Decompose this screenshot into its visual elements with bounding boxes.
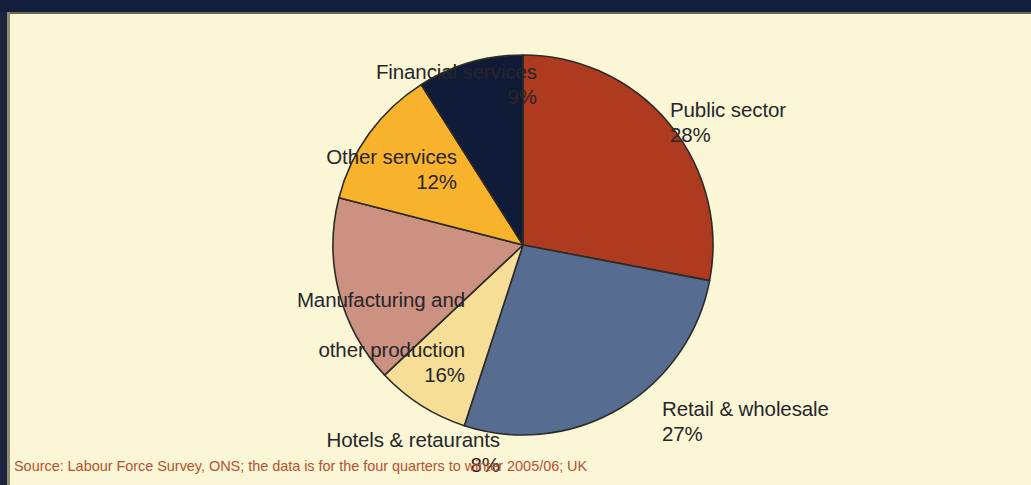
slice-label-text-line2: other production bbox=[318, 338, 465, 361]
slice-value-text: 16% bbox=[160, 362, 465, 387]
top-banner-bar bbox=[0, 0, 1031, 12]
left-edge-border bbox=[0, 12, 7, 485]
slice-label-text: Other services bbox=[326, 145, 457, 168]
slice-label-text: Retail & wholesale bbox=[662, 397, 829, 420]
chart-plot-area: Financial services 9% Public sector 28% … bbox=[10, 14, 1031, 485]
slice-label-other-services: Other services 12% bbox=[222, 119, 457, 219]
source-note: Source: Labour Force Survey, ONS; the da… bbox=[14, 457, 587, 475]
slice-label-text-line1: Manufacturing and bbox=[297, 288, 465, 311]
slice-label-manufacturing: Manufacturing and other production 16% bbox=[160, 262, 465, 412]
slice-label-text: Financial services bbox=[376, 60, 537, 83]
slice-label-retail-wholesale: Retail & wholesale 27% bbox=[662, 371, 952, 471]
pie-chart-figure: Financial services 9% Public sector 28% … bbox=[0, 0, 1031, 485]
slice-label-text: Hotels & retaurants bbox=[326, 428, 500, 451]
slice-value-text: 9% bbox=[297, 84, 537, 109]
slice-value-text: 27% bbox=[662, 421, 952, 446]
slice-label-public-sector: Public sector 28% bbox=[670, 72, 930, 172]
slice-value-text: 12% bbox=[222, 169, 457, 194]
slice-label-text: Public sector bbox=[670, 98, 786, 121]
slice-value-text: 28% bbox=[670, 122, 930, 147]
